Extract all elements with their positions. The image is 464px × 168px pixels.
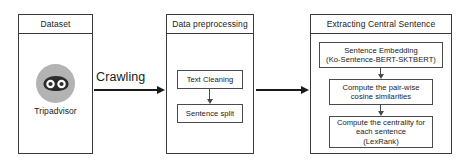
pipeline-diagram: Dataset Tripadvisor Crawling: [0, 0, 464, 168]
step-sentence-split: Sentence split: [177, 104, 243, 123]
step-cosine-similarity: Compute the pair-wise cosine similaritie…: [329, 79, 433, 105]
step-sentence-split-line-1: Sentence split: [186, 109, 234, 118]
panel-data-preprocessing-title: Data preprocessing: [167, 15, 253, 34]
panel-dataset-title: Dataset: [19, 15, 92, 34]
step-sentence-embedding-line-1: Sentence Embedding: [344, 46, 418, 55]
step-centrality-line-2: each sentence: [356, 127, 406, 136]
tripadvisor-owl-icon: [36, 64, 75, 103]
step-sentence-embedding: Sentence Embedding (Ko-Sentence-BERT-SKT…: [319, 42, 443, 68]
step-text-cleaning: Text Cleaning: [177, 70, 243, 89]
tripadvisor-logo-block: Tripadvisor: [19, 64, 92, 116]
step-text-cleaning-line-1: Text Cleaning: [187, 75, 234, 84]
panel-extracting-central-sentence-body: Sentence Embedding (Ko-Sentence-BERT-SKT…: [311, 34, 451, 153]
step-centrality-line-3: (LexRank): [363, 137, 398, 146]
connector-arrow-preprocessing: [209, 89, 210, 100]
panel-data-preprocessing: Data preprocessing Text Cleaning Sentenc…: [166, 14, 254, 154]
connector-arrow-cosine-to-centrality: [380, 105, 381, 112]
step-centrality: Compute the centrality for each sentence…: [329, 116, 433, 148]
panel-extracting-central-sentence-title: Extracting Central Sentence: [311, 15, 451, 34]
crawling-arrow: [94, 89, 158, 91]
panel-extracting-central-sentence: Extracting Central Sentence Sentence Emb…: [310, 14, 452, 154]
tripadvisor-label: Tripadvisor: [34, 106, 76, 116]
step-centrality-line-1: Compute the centrality for: [337, 118, 425, 127]
step-sentence-embedding-line-2: (Ko-Sentence-BERT-SKTBERT): [326, 55, 436, 64]
preprocessing-to-central-arrow: [256, 89, 302, 91]
step-cosine-similarity-line-2: cosine similarities: [351, 92, 411, 101]
panel-dataset-body: Tripadvisor: [19, 34, 92, 153]
step-cosine-similarity-line-1: Compute the pair-wise: [342, 83, 419, 92]
crawling-arrow-label: Crawling: [96, 70, 145, 84]
connector-arrow-embedding-to-cosine: [380, 68, 381, 75]
panel-data-preprocessing-body: Text Cleaning Sentence split: [167, 34, 253, 153]
panel-dataset: Dataset Tripadvisor: [18, 14, 93, 154]
